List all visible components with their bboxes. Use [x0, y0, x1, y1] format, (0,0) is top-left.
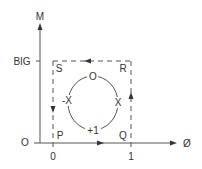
x-axis-arrowhead-icon: [170, 141, 177, 146]
x-tick-label-0: 0: [50, 151, 56, 162]
cycle-ellipse: [68, 76, 118, 130]
corner-label-p: P: [57, 130, 64, 141]
circle-label-right: X: [115, 97, 122, 108]
corner-label-r: R: [119, 63, 126, 74]
x-axis-label: Ø: [183, 138, 191, 149]
arrow-right-icon: [97, 141, 104, 146]
circle-label-bottom: +1: [87, 125, 99, 136]
y-tick-label-big: BIG: [13, 56, 30, 67]
corner-label-s: S: [56, 63, 63, 74]
arrow-down-icon: [51, 106, 56, 113]
x-tick-label-1: 1: [128, 151, 134, 162]
corner-label-q: Q: [119, 130, 127, 141]
origin-label: O: [21, 137, 29, 148]
phase-diagram: M Ø O BIG 0 1 S R P Q O X +1 -X: [0, 0, 202, 169]
arrow-left-icon: [84, 59, 91, 64]
y-axis-arrowhead-icon: [38, 23, 43, 30]
circle-label-left: -X: [62, 95, 72, 106]
y-axis-label: M: [36, 11, 44, 22]
arrow-up-icon: [129, 92, 134, 99]
circle-label-top: O: [89, 71, 97, 82]
